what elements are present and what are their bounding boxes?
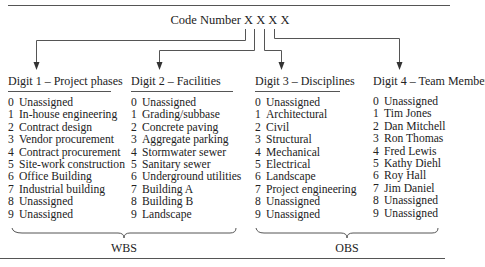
wbs-brace [12,228,236,238]
column-header: Digit 1 – Project phases [8,74,111,92]
code-list: 0Unassigned 1Architectural 2Civil 3Struc… [255,97,356,221]
column-header: Digit 3 – Disciplines [255,74,340,92]
code-list: 0Unassigned 1Tim Jones 2Dan Mitchell 3Ro… [373,96,481,220]
arrowhead-2 [157,62,163,70]
code-list: 0Unassigned 1In-house engineering 2Contr… [8,97,125,221]
obs-label: OBS [327,241,367,256]
list-item: 9Unassigned [8,209,125,221]
code-list: 0Unassigned 1Grading/subbase 2Concrete p… [131,97,241,221]
arrow-digit-1 [37,29,246,67]
obs-brace [256,228,438,238]
column-header: Digit 4 – Team Members [373,74,481,91]
list-item: 9Landscape [131,209,241,221]
arrow-digit-4 [275,29,400,67]
column-digit-2: Digit 2 – Facilities 0Unassigned 1Gradin… [131,71,241,221]
column-digit-3: Digit 3 – Disciplines 0Unassigned 1Archi… [255,71,356,221]
bottom-rule [0,258,445,259]
arrowhead-3 [279,62,285,70]
arrowhead-1 [34,62,40,70]
column-digit-4: Digit 4 – Team Members 0Unassigned 1Tim … [373,71,481,220]
arrowhead-4 [397,62,403,70]
arrow-digit-2 [160,29,255,67]
list-item: 9Unassigned [373,208,481,220]
column-header: Digit 2 – Facilities [131,74,233,92]
arrow-digit-3 [265,29,282,67]
wbs-label: WBS [104,241,144,256]
column-digit-1: Digit 1 – Project phases 0Unassigned 1In… [8,71,125,221]
list-item: 9Unassigned [255,209,356,221]
